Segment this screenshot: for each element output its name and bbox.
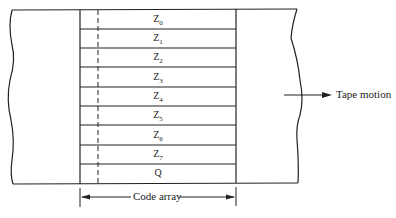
row-z3: Z3 <box>80 71 236 85</box>
row-z0: Z0 <box>80 13 236 27</box>
row-z5: Z5 <box>80 109 236 123</box>
row-z2: Z2 <box>80 51 236 65</box>
row-z7: Z7 <box>80 148 236 162</box>
row-z4: Z4 <box>80 90 236 104</box>
row-z6: Z6 <box>80 129 236 143</box>
tape-bottom-edge <box>13 183 298 184</box>
row-q: Q <box>80 167 236 181</box>
tape-left-torn-edge <box>8 10 13 184</box>
row-z1: Z1 <box>80 32 236 46</box>
tape-top-edge <box>12 9 297 10</box>
tape-motion-label: Tape motion <box>336 88 391 100</box>
tape-right-torn-edge <box>291 9 302 183</box>
code-array-label: Code array <box>133 190 182 202</box>
